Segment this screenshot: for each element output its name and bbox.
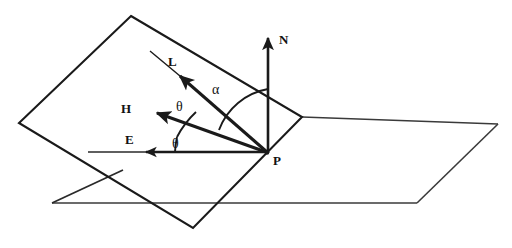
point-P-dot [265, 150, 270, 155]
label-H: H [121, 101, 131, 116]
surface-plane-group [19, 16, 302, 228]
label-theta-upper: θ [176, 99, 183, 114]
reference-plane-top-edge [302, 117, 498, 124]
label-L: L [168, 54, 177, 69]
label-N: N [279, 32, 289, 47]
reference-plane-right-edge [417, 124, 498, 203]
label-theta-lower: θ [172, 136, 179, 151]
label-alpha: α [212, 82, 220, 97]
vector-geometry-diagram: N L H E P α θ θ [0, 0, 512, 248]
diagram-canvas: N L H E P α θ θ [0, 0, 512, 248]
surface-plane-outline [19, 16, 302, 228]
label-P: P [273, 153, 281, 168]
label-E: E [125, 132, 134, 147]
